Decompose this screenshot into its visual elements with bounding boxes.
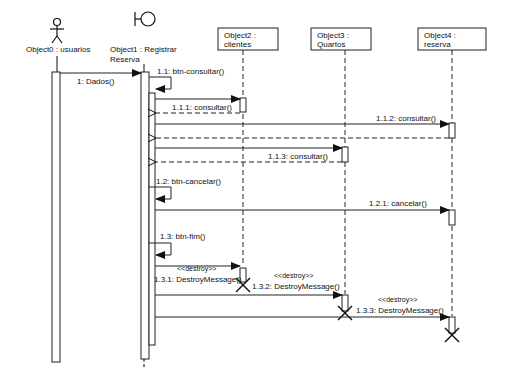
lifeline-label-line2: Reserva	[110, 55, 140, 64]
stereotype-label: <<destroy>>	[177, 265, 216, 273]
lifeline-object3-quartos[interactable]: Object3 : Quartos	[311, 28, 371, 320]
object-label-line2: reserva	[424, 40, 451, 49]
lifeline-label: Object1 : Registrar	[110, 45, 177, 54]
message-label: 1.3: btn-fim()	[160, 232, 206, 241]
activation-bar	[449, 210, 455, 225]
message-label: 1.2.1: cancelar()	[369, 199, 427, 208]
activation-bar	[240, 98, 246, 112]
activation-bar	[52, 72, 60, 362]
message-label: 1.1.1: consultar()	[172, 103, 232, 112]
object-label-line2: clientes	[224, 40, 251, 49]
object-label: Object3 :	[317, 31, 349, 40]
object-label: Object2 :	[224, 31, 256, 40]
object-label: Object4 :	[424, 31, 456, 40]
activation-bar	[141, 72, 149, 359]
self-message-btn-consultar[interactable]	[149, 77, 171, 89]
lifeline-object1-registrar-reserva[interactable]: Object1 : Registrar Reserva	[110, 12, 177, 368]
lifeline-object4-reserva[interactable]: Object4 : reserva	[418, 28, 486, 342]
message-label: 1.3.2: DestroyMessage()	[252, 282, 340, 291]
stereotype-label: <<destroy>>	[378, 296, 417, 304]
activation-bar	[342, 147, 348, 162]
message-label: 1.2: btn-cancelar()	[156, 177, 221, 186]
message-label: 1.3.3: DestroyMessage()	[356, 306, 444, 315]
activation-bar	[449, 317, 455, 333]
nested-activation-bar	[149, 93, 155, 345]
lifeline-object0-usuarios[interactable]: Object0 : usuarios	[26, 19, 90, 363]
lifeline-label: Object0 : usuarios	[26, 45, 90, 54]
message-label: 1: Dados()	[77, 77, 115, 86]
activation-bar	[342, 295, 348, 311]
sequence-diagram: Object0 : usuarios Object1 : Registrar R…	[0, 0, 514, 387]
message-label: 1.3.1: DestroyMessage()	[154, 275, 242, 284]
message-label: 1.1: btn-consultar()	[157, 67, 224, 76]
message-label: 1.1.2: consultar()	[376, 114, 436, 123]
activation-bar	[449, 123, 455, 138]
stereotype-label: <<destroy>>	[274, 272, 313, 280]
actor-stick-figure-icon	[50, 19, 64, 44]
message-label: 1.1.3: consultar()	[268, 152, 328, 161]
boundary-icon	[135, 12, 155, 26]
object-label-line2: Quartos	[317, 40, 345, 49]
